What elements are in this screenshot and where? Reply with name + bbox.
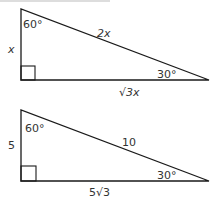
short-leg-label: x: [7, 43, 15, 56]
triangle-diagram: 60° 30° x 2x √3x 60° 30° 5 10 5√3: [0, 0, 214, 199]
triangle-outline: [21, 110, 209, 181]
short-leg-label: 5: [8, 139, 15, 152]
angle-30-label: 30°: [157, 68, 177, 81]
long-leg-label: √3x: [119, 86, 140, 99]
angle-30-label: 30°: [157, 169, 177, 182]
triangle-general: 60° 30° x 2x √3x: [7, 9, 209, 99]
triangle-example: 60° 30° 5 10 5√3: [8, 110, 209, 199]
long-leg-label: 5√3: [89, 186, 110, 199]
triangle-outline: [21, 9, 209, 80]
right-angle-marker: [21, 66, 35, 80]
angle-60-label: 60°: [25, 122, 45, 135]
right-angle-marker: [21, 166, 36, 181]
clipped-header-text: [0, 0, 110, 2]
angle-60-label: 60°: [23, 18, 43, 31]
hypotenuse-label: 2x: [97, 27, 111, 40]
hypotenuse-label: 10: [122, 136, 136, 149]
